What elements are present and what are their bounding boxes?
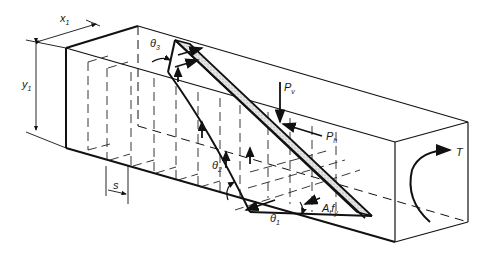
ph-arrow [283,124,322,136]
theta1-arc [300,202,303,214]
label-torque: T [456,146,464,158]
label-theta3: θ3 [150,37,160,51]
label-x1: x1 [59,12,70,26]
label-y1: y1 [21,78,32,92]
theta3-arc [152,58,170,62]
arrow-strut-mid [175,60,198,67]
space-truss-diagram: x1 y1 θ3 θ2 θ1 Pv Ph Atfy s T [0,0,489,256]
label-theta2: θ2 [212,159,222,173]
atfy-arrow [305,198,320,204]
theta2-arc [227,182,234,200]
label-theta1: θ1 [270,212,280,226]
back-top-edge [138,26,468,122]
strut-edge-long [175,40,365,218]
dimensions [26,20,128,204]
end-face-bottom [395,222,468,242]
labels: x1 y1 θ3 θ2 θ1 Pv Ph Atfy s T [21,12,464,226]
beam-box [66,26,468,242]
top-long-edge [66,48,395,142]
front-top-edge [66,26,138,48]
label-s: s [113,179,119,191]
end-face-top [395,122,468,142]
label-pv: Pv [284,81,295,95]
